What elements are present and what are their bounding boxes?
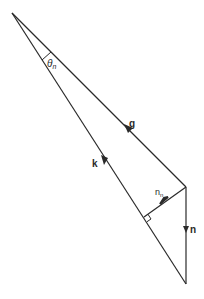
vector-n — [183, 187, 189, 284]
vector-k — [12, 13, 186, 284]
right-angle-marker — [147, 214, 151, 221]
vector-g — [12, 13, 186, 187]
g-label: g — [129, 118, 135, 129]
theta-label: θn — [47, 58, 56, 70]
k-label: k — [92, 158, 98, 169]
arrow-n-icon — [183, 226, 189, 233]
n-n-label: nn — [155, 187, 163, 198]
n-label: n — [190, 224, 196, 235]
vector-n-n — [144, 187, 186, 217]
vector-diagram: θn g k nn n — [0, 0, 204, 299]
